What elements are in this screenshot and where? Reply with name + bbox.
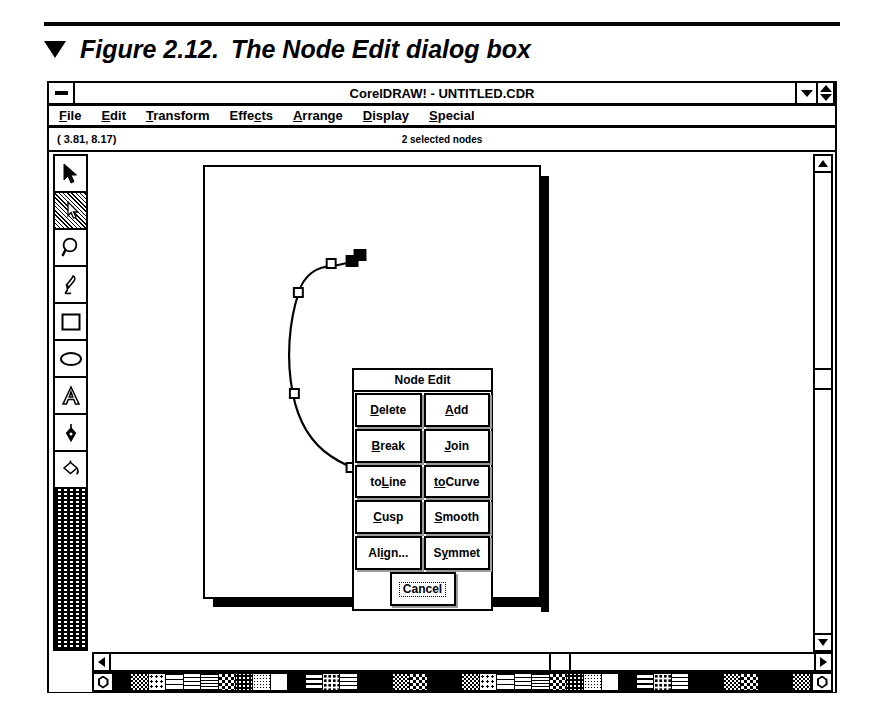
node-edit-dialog[interactable]: Node Edit Delete Add Break Join toLine — [352, 368, 493, 611]
scroll-left-button[interactable] — [94, 654, 111, 670]
palette-swatch[interactable] — [184, 674, 201, 690]
menu-arrange[interactable]: Arrange — [293, 108, 343, 123]
palette-swatch[interactable] — [619, 674, 636, 690]
delete-button[interactable]: Delete — [355, 393, 422, 427]
palette-swatch[interactable] — [759, 674, 776, 690]
menu-file[interactable]: File — [59, 108, 81, 123]
vertical-scroll-thumb[interactable] — [815, 368, 831, 390]
scroll-down-button[interactable] — [815, 633, 831, 650]
rectangle-tool[interactable] — [55, 304, 86, 341]
palette-swatch[interactable] — [672, 674, 689, 690]
dialog-row: Break Join — [355, 429, 490, 463]
scroll-up-button[interactable] — [815, 156, 831, 173]
palette-swatch[interactable] — [497, 674, 514, 690]
cancel-button-label: Cancel — [399, 582, 446, 597]
palette-swatch[interactable] — [741, 674, 758, 690]
palette-swatch[interactable] — [515, 674, 532, 690]
triangle-right-icon — [820, 657, 827, 667]
palette-swatch[interactable] — [654, 674, 671, 690]
palette-swatch[interactable] — [567, 674, 584, 690]
palette-swatch[interactable] — [271, 674, 288, 690]
palette-swatch[interactable] — [253, 674, 270, 690]
color-palette[interactable] — [92, 672, 833, 692]
maximize-button[interactable] — [816, 83, 835, 103]
paint-bucket-icon — [60, 459, 82, 480]
dialog-title: Node Edit — [354, 370, 491, 392]
menu-effects[interactable]: Effects — [230, 108, 273, 123]
align-button[interactable]: Align... — [355, 536, 422, 570]
palette-swatch[interactable] — [306, 674, 323, 690]
figure-title: The Node Edit dialog box — [231, 35, 531, 63]
palette-swatch[interactable] — [428, 674, 445, 690]
vertical-scrollbar[interactable] — [813, 154, 833, 652]
toline-button[interactable]: toLine — [355, 465, 422, 499]
palette-right-cap[interactable] — [811, 674, 831, 690]
figure-page: Figure 2.12.The Node Edit dialog box Cor… — [0, 0, 884, 723]
outline-pen-tool[interactable] — [55, 415, 86, 452]
menu-transform[interactable]: Transform — [146, 108, 210, 123]
palette-swatch[interactable] — [393, 674, 410, 690]
dialog-row: toLine toCurve — [355, 465, 490, 499]
zoom-tool[interactable] — [55, 230, 86, 267]
palette-swatch[interactable] — [480, 674, 497, 690]
palette-swatch[interactable] — [201, 674, 218, 690]
palette-swatch[interactable] — [445, 674, 462, 690]
palette-swatch[interactable] — [689, 674, 706, 690]
selection-status: 2 selected nodes — [402, 134, 483, 145]
figure-number: Figure 2.12. — [80, 35, 219, 63]
join-button[interactable]: Join — [424, 429, 491, 463]
ellipse-tool[interactable] — [55, 341, 86, 378]
palette-swatch[interactable] — [724, 674, 741, 690]
window-titlebar[interactable]: CorelDRAW! - UNTITLED.CDR — [49, 83, 835, 106]
palette-swatch[interactable] — [236, 674, 253, 690]
symmet-button[interactable]: Symmet — [424, 536, 491, 570]
menu-edit[interactable]: Edit — [101, 108, 126, 123]
dialog-row: Cancel — [355, 572, 490, 606]
rectangle-icon — [60, 312, 82, 332]
palette-swatch[interactable] — [131, 674, 148, 690]
pick-tool[interactable] — [55, 156, 86, 193]
break-button[interactable]: Break — [355, 429, 422, 463]
palette-swatch[interactable] — [358, 674, 375, 690]
menu-display[interactable]: Display — [363, 108, 409, 123]
palette-swatches[interactable] — [114, 674, 811, 690]
palette-swatch[interactable] — [219, 674, 236, 690]
palette-swatch[interactable] — [793, 674, 810, 690]
smooth-button[interactable]: Smooth — [424, 500, 491, 534]
pencil-tool[interactable] — [55, 267, 86, 304]
palette-swatch[interactable] — [149, 674, 166, 690]
text-tool[interactable] — [55, 378, 86, 415]
minimize-button[interactable] — [797, 83, 816, 103]
palette-swatch[interactable] — [776, 674, 793, 690]
drawing-canvas[interactable]: Node Edit Delete Add Break Join toLine — [92, 154, 811, 652]
palette-swatch[interactable] — [532, 674, 549, 690]
add-button[interactable]: Add — [424, 393, 491, 427]
palette-swatch[interactable] — [323, 674, 340, 690]
horizontal-scrollbar[interactable] — [92, 652, 833, 672]
cusp-button[interactable]: Cusp — [355, 500, 422, 534]
palette-swatch[interactable] — [410, 674, 427, 690]
menu-special[interactable]: Special — [429, 108, 475, 123]
palette-swatch[interactable] — [602, 674, 619, 690]
fill-tool[interactable] — [55, 452, 86, 489]
tocurve-button[interactable]: toCurve — [424, 465, 491, 499]
ellipse-icon — [59, 350, 83, 368]
palette-swatch[interactable] — [584, 674, 601, 690]
horizontal-scroll-thumb[interactable] — [549, 654, 571, 670]
shape-tool[interactable] — [55, 193, 86, 230]
palette-swatch[interactable] — [637, 674, 654, 690]
pen-nib-icon — [63, 422, 79, 444]
status-bar: ( 3.81, 8.17) 2 selected nodes — [49, 128, 835, 152]
cancel-button[interactable]: Cancel — [390, 572, 456, 606]
palette-swatch[interactable] — [462, 674, 479, 690]
palette-swatch[interactable] — [166, 674, 183, 690]
palette-swatch[interactable] — [706, 674, 723, 690]
dialog-button-grid: Delete Add Break Join toLine toCurve — [354, 392, 491, 609]
palette-left-cap[interactable] — [94, 674, 114, 690]
palette-swatch[interactable] — [375, 674, 392, 690]
palette-swatch[interactable] — [288, 674, 305, 690]
palette-swatch[interactable] — [340, 674, 357, 690]
palette-swatch[interactable] — [550, 674, 567, 690]
scroll-right-button[interactable] — [814, 654, 831, 670]
palette-swatch[interactable] — [114, 674, 131, 690]
